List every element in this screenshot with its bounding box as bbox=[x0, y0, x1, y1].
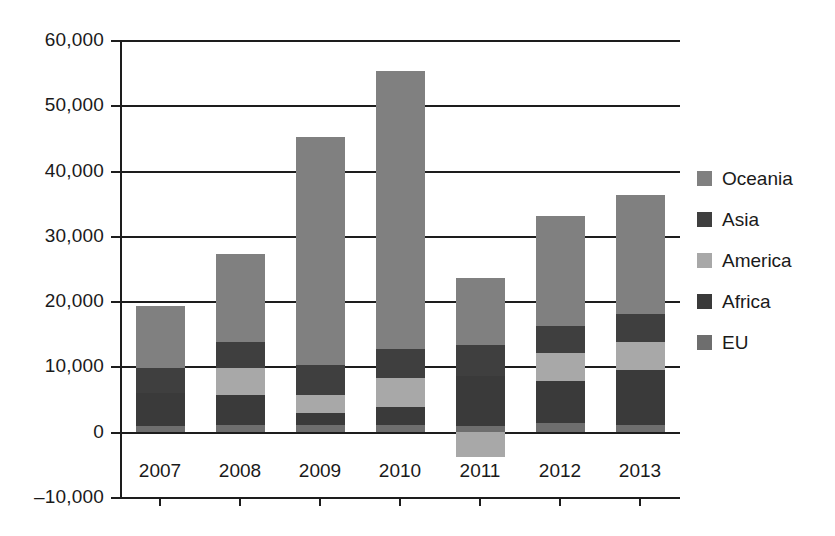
bar-segment-africa-2009 bbox=[296, 413, 345, 425]
bar-segment-africa-2011 bbox=[456, 376, 505, 426]
x-axis-tick-label: 2009 bbox=[280, 460, 360, 482]
bar-group bbox=[616, 40, 665, 497]
bar-segment-eu-2008 bbox=[216, 425, 265, 432]
bar-segment-africa-2012 bbox=[536, 381, 585, 423]
stacked-bar-chart: 60,00050,00040,00030,00020,00010,0000–10… bbox=[0, 0, 835, 536]
bar-segment-africa-2010 bbox=[376, 407, 425, 425]
y-axis-tick-label: 40,000 bbox=[45, 161, 104, 180]
y-axis-tick-label: 10,000 bbox=[45, 356, 104, 375]
bar-segment-oceania-2008 bbox=[216, 254, 265, 342]
bar-segment-asia-2008 bbox=[216, 342, 265, 367]
x-axis-tick-label: 2012 bbox=[520, 460, 600, 482]
bar-segment-asia-2007 bbox=[136, 368, 185, 393]
legend-item-label: Asia bbox=[722, 210, 759, 229]
y-axis-tick-label: 50,000 bbox=[45, 95, 104, 114]
x-axis-tick-label: 2007 bbox=[120, 460, 200, 482]
bar-segment-asia-2010 bbox=[376, 349, 425, 378]
legend-item-label: EU bbox=[722, 333, 748, 352]
bar-segment-asia-2009 bbox=[296, 365, 345, 395]
y-axis-tick-label: 20,000 bbox=[45, 291, 104, 310]
bar-segment-oceania-2007 bbox=[136, 306, 185, 368]
bar-segment-oceania-2009 bbox=[296, 137, 345, 366]
y-axis-tick-label: 60,000 bbox=[45, 30, 104, 49]
bar-segment-oceania-2011 bbox=[456, 278, 505, 345]
bar-group bbox=[216, 40, 265, 497]
y-tick-60000 bbox=[111, 40, 120, 42]
legend-swatch-icon bbox=[697, 335, 712, 350]
y-axis-tick-label: –10,000 bbox=[34, 487, 104, 506]
bar-segment-america-2008 bbox=[216, 368, 265, 395]
bar-segment-america-2012 bbox=[536, 353, 585, 381]
bar-segment-eu-2010 bbox=[376, 425, 425, 432]
x-axis-tick-label: 2008 bbox=[200, 460, 280, 482]
y-tick-50000 bbox=[111, 105, 120, 107]
bar-segment-america-2013 bbox=[616, 342, 665, 371]
bar-segment-eu-2013 bbox=[616, 425, 665, 432]
bar-segment-eu-2009 bbox=[296, 425, 345, 432]
x-axis-labels: 2007200820092010201120122013 bbox=[120, 452, 680, 482]
bar-group bbox=[536, 40, 585, 497]
y-tick--10000 bbox=[111, 497, 120, 499]
legend-swatch-icon bbox=[697, 294, 712, 309]
bar-segment-america-2009 bbox=[296, 395, 345, 413]
y-tick-40000 bbox=[111, 171, 120, 173]
legend-swatch-icon bbox=[697, 171, 712, 186]
plot-area bbox=[120, 40, 680, 497]
legend-item-label: America bbox=[722, 251, 792, 270]
bar-segment-eu-2007 bbox=[136, 426, 185, 432]
bar-group bbox=[376, 40, 425, 497]
legend-swatch-icon bbox=[697, 212, 712, 227]
y-tick-20000 bbox=[111, 301, 120, 303]
legend: OceaniaAsiaAmericaAfricaEU bbox=[697, 158, 827, 363]
legend-item-africa[interactable]: Africa bbox=[697, 281, 827, 322]
bar-segment-eu-2012 bbox=[536, 423, 585, 431]
x-axis-tick-label: 2011 bbox=[440, 460, 520, 482]
bar-segment-africa-2008 bbox=[216, 395, 265, 424]
bar-segment-oceania-2012 bbox=[536, 216, 585, 326]
x-axis-tick-label: 2010 bbox=[360, 460, 440, 482]
bar-segment-america-2010 bbox=[376, 378, 425, 407]
bar-segment-africa-2013 bbox=[616, 370, 665, 425]
bar-segment-africa-2007 bbox=[136, 393, 185, 426]
bar-group bbox=[456, 40, 505, 497]
y-tick-10000 bbox=[111, 366, 120, 368]
bar-group bbox=[136, 40, 185, 497]
bar-segment-asia-2011 bbox=[456, 345, 505, 376]
bar-segment-asia-2013 bbox=[616, 314, 665, 342]
y-axis-spine bbox=[120, 40, 122, 497]
legend-item-label: Oceania bbox=[722, 169, 793, 188]
legend-item-oceania[interactable]: Oceania bbox=[697, 158, 827, 199]
y-axis-labels: 60,00050,00040,00030,00020,00010,0000–10… bbox=[0, 40, 104, 497]
legend-item-america[interactable]: America bbox=[697, 240, 827, 281]
bar-segment-asia-2012 bbox=[536, 326, 585, 353]
x-axis-line bbox=[120, 497, 680, 499]
legend-item-asia[interactable]: Asia bbox=[697, 199, 827, 240]
legend-swatch-icon bbox=[697, 253, 712, 268]
legend-item-label: Africa bbox=[722, 292, 771, 311]
y-axis-tick-label: 0 bbox=[93, 422, 104, 441]
bar-segment-oceania-2013 bbox=[616, 195, 665, 314]
y-tick-30000 bbox=[111, 236, 120, 238]
y-axis-tick-label: 30,000 bbox=[45, 226, 104, 245]
legend-item-eu[interactable]: EU bbox=[697, 322, 827, 363]
bar-segment-oceania-2010 bbox=[376, 71, 425, 348]
bar-group bbox=[296, 40, 345, 497]
x-axis-tick-label: 2013 bbox=[600, 460, 680, 482]
y-tick-0 bbox=[111, 432, 120, 434]
